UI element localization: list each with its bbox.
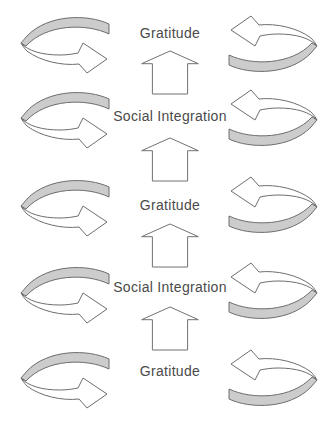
stage-label: Gratitude bbox=[58, 197, 282, 213]
stage-label: Gratitude bbox=[58, 25, 282, 41]
up-arrow-icon bbox=[140, 50, 200, 95]
up-arrow-icon bbox=[140, 137, 200, 182]
up-arrow-icon bbox=[140, 223, 200, 268]
up-arrow-icon bbox=[140, 306, 200, 351]
reciprocity-cycle-diagram: Gratitude Social Integration Gratitude S… bbox=[0, 0, 336, 427]
rotation-arrow-left-icon bbox=[18, 351, 110, 409]
rotation-arrow-right-icon bbox=[228, 15, 320, 73]
rotation-arrow-left-icon bbox=[18, 266, 110, 324]
stage-label: Social Integration bbox=[58, 108, 282, 124]
stage-label: Gratitude bbox=[58, 363, 282, 379]
stage-label: Social Integration bbox=[58, 279, 282, 295]
